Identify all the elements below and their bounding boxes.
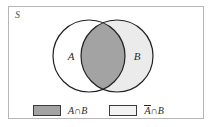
legend-item-intersection: A∩B (33, 105, 87, 116)
legend: A∩B A∩B (33, 102, 203, 118)
legend-label-b: B (81, 105, 87, 116)
legend-item-complement-intersection: A∩B (109, 105, 163, 116)
legend-label-intersection: A∩B (68, 105, 87, 116)
legend-operator-intersect-2: ∩ (151, 105, 158, 116)
figure-frame: S A B A∩ (8, 6, 204, 119)
set-b-label: B (134, 50, 141, 62)
light-gray-swatch (109, 105, 137, 116)
legend-label-complement-intersection: A∩B (144, 105, 163, 116)
dark-gray-swatch (33, 105, 61, 116)
legend-label-b-2: B (158, 105, 164, 116)
venn-diagram-figure: S A B A∩ (0, 0, 213, 127)
set-a-label: A (67, 50, 75, 62)
